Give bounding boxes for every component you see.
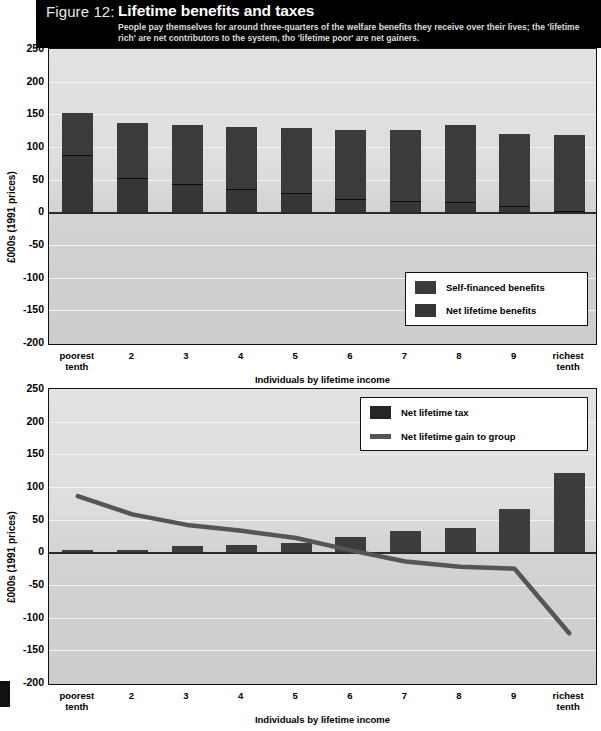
x-axis-tick: 7 xyxy=(377,350,432,361)
x-axis-tick: 2 xyxy=(104,350,159,361)
legend-label-net-tax: Net lifetime tax xyxy=(401,407,469,418)
bar-stacked xyxy=(226,127,257,212)
bar-stacked xyxy=(172,125,203,212)
chart-bottom-x-axis-title: Individuals by lifetime income xyxy=(48,714,597,725)
figure-title: Lifetime benefits and taxes xyxy=(118,2,314,20)
x-axis-tick: 6 xyxy=(323,690,378,701)
x-axis-tick: 5 xyxy=(268,350,323,361)
y-axis-tick: 100 xyxy=(26,140,44,152)
bar-stacked xyxy=(335,130,366,212)
y-axis-tick: -50 xyxy=(29,578,44,590)
figure-subtitle: People pay themselves for around three-q… xyxy=(118,22,588,43)
chart-top-y-axis-label: £000s (1991 prices) xyxy=(6,171,17,263)
gridline xyxy=(49,245,596,246)
bar-segment-self-financed xyxy=(499,134,530,207)
figure-number: Figure 12: xyxy=(46,3,115,20)
x-axis-tick: 6 xyxy=(323,350,378,361)
y-axis-tick: 50 xyxy=(32,173,44,185)
y-axis-tick: -200 xyxy=(23,676,44,688)
bar-segment-net-benefits xyxy=(62,155,93,212)
bar-segment-self-financed xyxy=(117,123,148,178)
legend-entry-net-tax: Net lifetime tax xyxy=(370,406,469,419)
y-axis-tick: 200 xyxy=(26,415,44,427)
legend-swatch-self-financed xyxy=(415,281,436,294)
legend-label-net-benefits: Net lifetime benefits xyxy=(446,305,536,316)
legend-label-self-financed: Self-financed benefits xyxy=(446,282,545,293)
legend-swatch-net-gain xyxy=(370,434,391,439)
bar-segment-net-benefits xyxy=(335,199,366,213)
legend-swatch-net-tax xyxy=(370,406,391,419)
chart-bottom: Net lifetime tax Net lifetime gain to gr… xyxy=(48,388,597,685)
bar-segment-net-benefits xyxy=(117,178,148,213)
x-axis-tick: 9 xyxy=(486,690,541,701)
y-axis-tick: 0 xyxy=(38,205,44,217)
bar-stacked xyxy=(62,113,93,212)
x-axis-tick: richesttenth xyxy=(541,690,596,712)
y-axis-tick: 50 xyxy=(32,513,44,525)
legend-label-net-gain: Net lifetime gain to group xyxy=(401,431,516,442)
chart-bottom-y-axis-label: £000s (1991 prices) xyxy=(6,511,17,603)
bar-stacked xyxy=(117,123,148,213)
bar-segment-net-benefits xyxy=(499,206,530,212)
bar-segment-net-benefits xyxy=(226,189,257,212)
y-axis-tick: 0 xyxy=(38,545,44,557)
y-axis-tick: 100 xyxy=(26,480,44,492)
page-edge-mark xyxy=(0,681,10,707)
bar-stacked xyxy=(390,130,421,212)
x-axis-tick: 3 xyxy=(159,350,214,361)
y-axis-tick: -100 xyxy=(23,611,44,623)
y-axis-tick: 150 xyxy=(26,107,44,119)
bar-segment-self-financed xyxy=(172,125,203,184)
y-axis-tick: 150 xyxy=(26,447,44,459)
figure-banner: Figure 12: Lifetime benefits and taxes P… xyxy=(36,0,601,48)
y-axis-tick: -100 xyxy=(23,271,44,283)
x-axis-tick: 9 xyxy=(486,350,541,361)
net-lifetime-gain-line xyxy=(78,496,569,633)
x-axis-tick: 4 xyxy=(213,350,268,361)
bar-segment-self-financed xyxy=(445,125,476,201)
chart-top: Self-financed benefits Net lifetime bene… xyxy=(48,48,597,345)
x-axis-tick: 8 xyxy=(432,690,487,701)
x-axis-tick: pooresttenth xyxy=(50,350,105,372)
x-axis-tick: 2 xyxy=(104,690,159,701)
y-axis-tick: 250 xyxy=(26,382,44,394)
bar-segment-net-benefits xyxy=(390,201,421,212)
figure-page: Figure 12: Lifetime benefits and taxes P… xyxy=(0,0,601,731)
x-axis-tick: richesttenth xyxy=(541,350,596,372)
chart-top-x-axis-title: Individuals by lifetime income xyxy=(48,374,597,385)
bar-segment-net-benefits xyxy=(554,211,585,212)
legend-entry-net-benefits: Net lifetime benefits xyxy=(415,304,536,317)
x-axis-tick: 5 xyxy=(268,690,323,701)
bar-stacked xyxy=(499,134,530,212)
bar-segment-self-financed xyxy=(226,127,257,189)
x-axis-tick: 3 xyxy=(159,690,214,701)
y-axis-tick: -50 xyxy=(29,238,44,250)
x-axis-tick: 7 xyxy=(377,690,432,701)
x-axis-tick: 8 xyxy=(432,350,487,361)
bar-stacked xyxy=(554,135,585,213)
bar-segment-self-financed xyxy=(62,113,93,155)
zero-axis-line xyxy=(49,212,596,214)
y-axis-tick: -150 xyxy=(23,303,44,315)
gridline xyxy=(49,114,596,115)
chart-top-legend: Self-financed benefits Net lifetime bene… xyxy=(405,272,588,326)
chart-bottom-legend: Net lifetime tax Net lifetime gain to gr… xyxy=(360,397,588,451)
legend-swatch-net-benefits xyxy=(415,304,436,317)
bar-segment-net-benefits xyxy=(281,193,312,213)
bar-stacked xyxy=(281,128,312,212)
x-axis-tick: pooresttenth xyxy=(50,690,105,712)
chart-top-plot-area: Self-financed benefits Net lifetime bene… xyxy=(48,48,597,345)
bar-segment-self-financed xyxy=(390,130,421,201)
bar-segment-self-financed xyxy=(335,130,366,199)
y-axis-tick: -150 xyxy=(23,643,44,655)
legend-entry-self-financed: Self-financed benefits xyxy=(415,281,545,294)
y-axis-tick: 250 xyxy=(26,42,44,54)
bar-segment-net-benefits xyxy=(445,202,476,212)
chart-bottom-plot-area: Net lifetime tax Net lifetime gain to gr… xyxy=(48,388,597,685)
legend-entry-net-gain: Net lifetime gain to group xyxy=(370,431,516,442)
bar-segment-self-financed xyxy=(281,128,312,193)
gridline xyxy=(49,82,596,83)
y-axis-tick: 200 xyxy=(26,75,44,87)
bar-segment-net-benefits xyxy=(172,184,203,212)
y-axis-tick: -200 xyxy=(23,336,44,348)
